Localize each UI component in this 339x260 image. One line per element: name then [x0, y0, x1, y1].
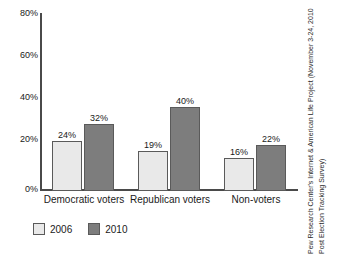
x-axis-label-democratic-voters: Democratic voters: [34, 194, 134, 206]
bar-republican-voters-2010[interactable]: 40%: [170, 107, 200, 191]
x-axis-label-non-voters: Non-voters: [206, 194, 306, 206]
legend-swatch-icon-2010: [88, 223, 100, 235]
bar-value-label: 19%: [144, 140, 162, 150]
bar-democratic-voters-2010[interactable]: 32%: [84, 124, 114, 191]
y-axis-tick-0: 0%: [0, 185, 38, 194]
bar-chart-figure: 80% 60% 40% 20% 0% 24% 32% 19% 40%: [0, 0, 339, 260]
bar-group-non-voters: 16% 22%: [222, 13, 290, 191]
y-axis-tick-20: 20%: [0, 135, 38, 144]
y-axis-tick-60: 60%: [0, 51, 38, 60]
bar-democratic-voters-2006[interactable]: 24%: [52, 141, 82, 191]
bar-non-voters-2010[interactable]: 22%: [256, 145, 286, 191]
bar-non-voters-2006[interactable]: 16%: [224, 158, 254, 191]
legend-swatch-icon-2006: [33, 223, 45, 235]
bar-value-label: 40%: [176, 96, 194, 106]
source-note-line-2: Post Election Tracking Survey): [318, 159, 326, 254]
bar-value-label: 24%: [58, 130, 76, 140]
plot-area: 80% 60% 40% 20% 0% 24% 32% 19% 40%: [0, 0, 300, 215]
x-axis-label-republican-voters: Republican voters: [120, 194, 220, 206]
source-note: Pew Research Center's Internet & America…: [303, 0, 337, 254]
legend-label-2006: 2006: [50, 224, 72, 235]
y-axis-tick-80: 80%: [0, 9, 38, 18]
bar-group-republican-voters: 19% 40%: [136, 13, 204, 191]
bars-layer: 24% 32% 19% 40% 16% 22%: [42, 13, 298, 191]
bar-group-democratic-voters: 24% 32%: [50, 13, 118, 191]
y-axis-tick-40: 40%: [0, 93, 38, 102]
bar-value-label: 16%: [230, 147, 248, 157]
bar-republican-voters-2006[interactable]: 19%: [138, 151, 168, 191]
x-axis-category-labels: Democratic voters Republican voters Non-…: [42, 194, 298, 210]
bar-value-label: 22%: [262, 134, 280, 144]
legend-item-2006[interactable]: 2006: [33, 223, 72, 235]
legend-label-2010: 2010: [105, 224, 127, 235]
bar-value-label: 32%: [90, 113, 108, 123]
chart-legend: 2006 2010: [33, 223, 128, 235]
source-note-line-1: Pew Research Center's Internet & America…: [307, 8, 315, 254]
legend-item-2010[interactable]: 2010: [88, 223, 127, 235]
